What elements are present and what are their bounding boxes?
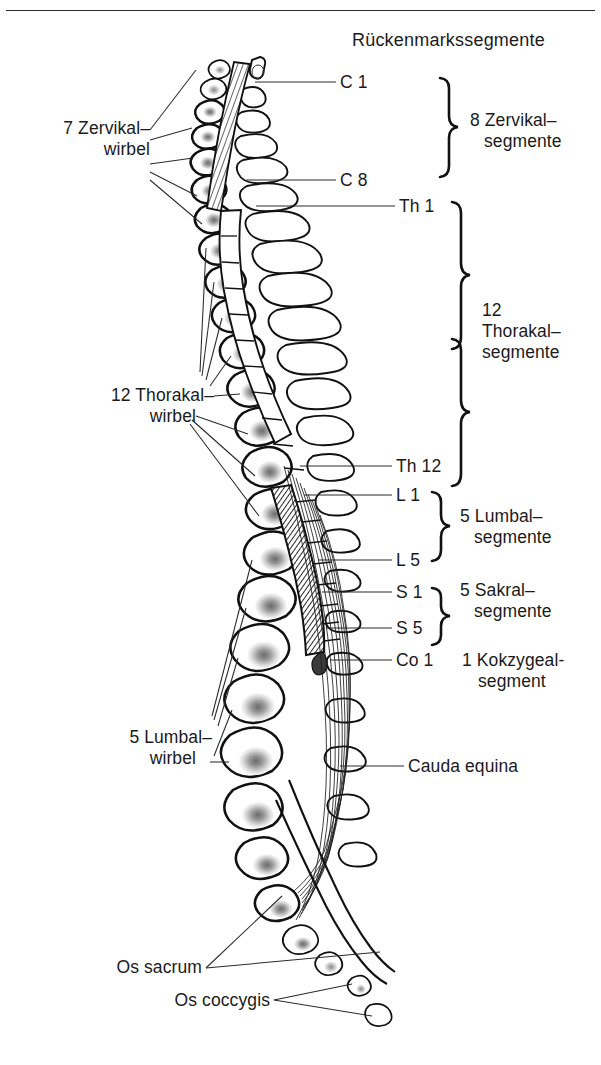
label-c1: C 1 bbox=[340, 72, 368, 93]
group-thoracic-line3: segmente bbox=[482, 342, 560, 363]
label-lumbar-vertebrae-line1: 5 Lumbal– bbox=[0, 727, 212, 748]
group-cervical-line1: 8 Zervikal– bbox=[470, 110, 557, 131]
group-cervical-line2: segmente bbox=[484, 131, 562, 152]
label-co1: Co 1 bbox=[396, 650, 433, 671]
label-th12: Th 12 bbox=[396, 456, 441, 477]
label-thoracic-vertebrae-line1: 12 Thorakal– bbox=[0, 385, 214, 406]
brace-thoracic-lower bbox=[452, 339, 470, 486]
label-cauda-equina: Cauda equina bbox=[408, 756, 518, 777]
brace-thoracic bbox=[452, 202, 470, 349]
label-l5: L 5 bbox=[396, 550, 420, 571]
brace-sacral bbox=[432, 588, 450, 645]
group-lumbar-line2: segmente bbox=[474, 527, 552, 548]
label-c8: C 8 bbox=[340, 170, 368, 191]
label-s1: S 1 bbox=[396, 582, 423, 603]
label-lumbar-vertebrae-line2: wirbel bbox=[0, 748, 196, 769]
brace-lumbar bbox=[432, 492, 450, 561]
label-thoracic-vertebrae-line2: wirbel bbox=[0, 406, 196, 427]
group-sacral-line1: 5 Sakral– bbox=[460, 580, 535, 601]
label-os-coccygis: Os coccygis bbox=[0, 990, 270, 1011]
group-coccygeal-line1: 1 Kokzygeal- bbox=[462, 650, 564, 671]
label-os-sacrum: Os sacrum bbox=[0, 957, 202, 978]
brace-cervical bbox=[440, 78, 458, 177]
group-sacral-line2: segmente bbox=[474, 601, 552, 622]
figure-canvas: Rückenmarkssegmente C 1 C 8 Th 1 Th 12 L… bbox=[0, 0, 601, 1065]
label-l1: L 1 bbox=[396, 485, 420, 506]
segment-braces bbox=[432, 78, 470, 645]
group-thoracic-line2: Thorakal– bbox=[482, 321, 561, 342]
label-th1: Th 1 bbox=[399, 196, 434, 217]
label-cervical-vertebrae-line2: wirbel bbox=[0, 139, 150, 160]
group-lumbar-line1: 5 Lumbal– bbox=[460, 506, 543, 527]
page-title: Rückenmarkssegmente bbox=[352, 30, 545, 51]
group-coccygeal-line2: segment bbox=[478, 671, 546, 692]
group-thoracic-line1: 12 bbox=[482, 300, 502, 321]
label-cervical-vertebrae-line1: 7 Zervikal– bbox=[0, 118, 150, 139]
label-s5: S 5 bbox=[396, 618, 423, 639]
